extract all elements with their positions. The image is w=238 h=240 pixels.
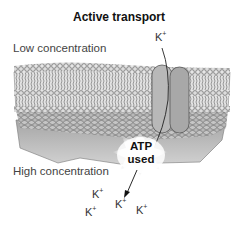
k-ion-top: K+: [155, 30, 166, 43]
k-ion: K+: [115, 197, 126, 210]
atp-line1: ATP: [125, 140, 157, 153]
ion-charge: +: [143, 203, 147, 210]
k-ion: K+: [85, 205, 96, 218]
ion-charge: +: [162, 30, 166, 37]
transport-protein: [152, 65, 189, 133]
k-ion: K+: [136, 203, 147, 216]
atp-line2: used: [125, 153, 157, 166]
ion-charge: +: [92, 205, 96, 212]
ion-charge: +: [122, 197, 126, 204]
k-ion: K+: [92, 187, 103, 200]
ion-charge: +: [99, 187, 103, 194]
atp-used-label: ATP used: [125, 140, 157, 166]
